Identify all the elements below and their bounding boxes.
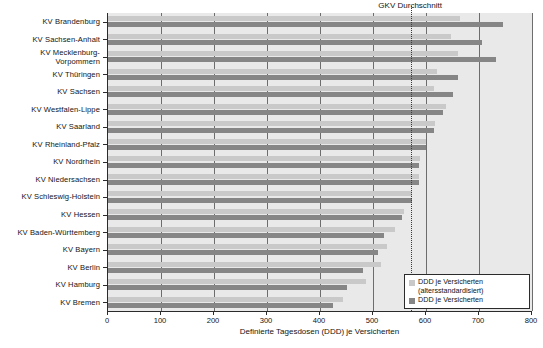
x-axis-tick-label-400: 400 [313,316,326,325]
bar-ddd-je-versicherten [108,285,347,290]
gridline-800 [532,13,533,311]
y-axis-label: KV Berlin [67,263,100,272]
x-axis-tick-label-200: 200 [207,316,220,325]
y-axis-label: KV Saarland [56,122,100,131]
gkv-average-dotted-line [411,6,412,311]
bar-series-group [108,13,532,311]
bar-altersstandardisiert [108,297,343,302]
x-axis-tick-400 [319,311,320,315]
bar-row [108,66,532,84]
bar-row [108,83,532,101]
x-axis-tick-label-0: 0 [105,316,109,325]
y-axis-label: KV Nordrhein [53,157,100,166]
bar-ddd-je-versicherten [108,75,458,80]
legend-label-ddd-je-versicherten: DDD je Versicherten [418,296,483,305]
y-axis-category-labels: KV BrandenburgKV Sachsen-AnhaltKV Meckle… [0,13,104,311]
bar-row [108,136,532,154]
bar-ddd-je-versicherten [108,92,453,97]
bar-row [108,206,532,224]
y-axis-label: KV Bayern [63,245,100,254]
bar-altersstandardisiert [108,174,419,179]
x-axis-tick-label-800: 800 [525,316,538,325]
chart-legend: DDD je Versicherten (altersstandardisier… [404,274,530,309]
x-axis-tick-label-600: 600 [419,316,432,325]
y-axis-label: KV Niedersachsen [36,175,101,184]
bar-ddd-je-versicherten [108,250,378,255]
y-axis-label: KV Sachsen [57,87,100,96]
bar-row [108,101,532,119]
x-axis-tick-0 [107,311,108,315]
gkv-average-annotation-label: GKV Durchschnitt [378,1,442,10]
bar-altersstandardisiert [108,209,404,214]
chart-figure: GKV Durchschnitt KV BrandenburgKV Sachse… [0,0,543,348]
legend-item-ddd-je-versicherten: DDD je Versicherten [409,296,525,305]
y-axis-label: KV Baden-Württemberg [17,228,100,237]
bar-ddd-je-versicherten [108,198,412,203]
y-axis-label: KV Schleswig-Holstein [22,192,101,201]
bar-ddd-je-versicherten [108,22,503,27]
y-axis-label: KV Hessen [61,210,100,219]
bar-row [108,241,532,259]
x-axis-tick-600 [425,311,426,315]
bar-ddd-je-versicherten [108,303,333,308]
bar-altersstandardisiert [108,34,451,39]
bar-ddd-je-versicherten [108,180,419,185]
bar-ddd-je-versicherten [108,233,384,238]
bar-row [108,13,532,31]
bar-altersstandardisiert [108,69,437,74]
x-axis-tick-label-300: 300 [260,316,273,325]
x-axis-tick-300 [266,311,267,315]
bar-ddd-je-versicherten [108,110,443,115]
bar-altersstandardisiert [108,279,366,284]
y-axis-label: KV Sachsen-Anhalt [32,35,100,44]
bar-altersstandardisiert [108,262,381,267]
bar-row [108,48,532,66]
bar-row [108,223,532,241]
y-axis-label: KV Bremen [60,298,100,307]
legend-item-altersstandardisiert: DDD je Versicherten (altersstandardisier… [409,278,525,295]
bar-altersstandardisiert [108,191,412,196]
x-axis-tick-label-100: 100 [154,316,167,325]
bar-ddd-je-versicherten [108,163,419,168]
plot-area [107,13,532,312]
bar-altersstandardisiert [108,104,446,109]
bar-ddd-je-versicherten [108,40,482,45]
bar-row [108,153,532,171]
bar-altersstandardisiert [108,227,395,232]
bar-row [108,188,532,206]
legend-label-altersstandardisiert: DDD je Versicherten (altersstandardisier… [418,278,484,295]
x-axis-tick-800 [531,311,532,315]
y-axis-label: KV Rheinland-Pfalz [32,140,100,149]
y-axis-label: KV Mecklenburg- Vorpommern [40,48,100,66]
bar-altersstandardisiert [108,156,420,161]
bar-row [108,118,532,136]
bar-altersstandardisiert [108,139,426,144]
bar-altersstandardisiert [108,86,434,91]
bar-altersstandardisiert [108,16,460,21]
bar-altersstandardisiert [108,51,458,56]
bar-ddd-je-versicherten [108,57,496,62]
legend-swatch-light-icon [409,280,415,286]
bar-ddd-je-versicherten [108,215,402,220]
y-axis-label: KV Westfalen-Lippe [31,105,100,114]
bar-ddd-je-versicherten [108,145,426,150]
y-axis-label: KV Thüringen [53,70,101,79]
x-axis-tick-700 [478,311,479,315]
bar-ddd-je-versicherten [108,268,363,273]
y-axis-label: KV Brandenburg [42,17,100,26]
bar-row [108,31,532,49]
x-axis-tick-200 [213,311,214,315]
bar-altersstandardisiert [108,121,435,126]
x-axis-tick-label-500: 500 [366,316,379,325]
x-axis-tick-100 [160,311,161,315]
x-axis-title: Definierte Tagesdosen (DDD) je Versicher… [107,327,532,336]
bar-row [108,171,532,189]
x-axis: 0100200300400500600700800 [107,311,532,341]
y-axis-label: KV Hamburg [56,280,100,289]
x-axis-tick-500 [372,311,373,315]
x-axis-tick-label-700: 700 [472,316,485,325]
bar-ddd-je-versicherten [108,128,434,133]
legend-swatch-dark-icon [409,298,415,304]
bar-altersstandardisiert [108,244,387,249]
